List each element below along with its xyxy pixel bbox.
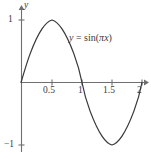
equation-function: sin: [84, 32, 96, 43]
equation-lhs: y: [69, 32, 73, 43]
equation-close-paren: ): [109, 32, 112, 43]
x-tick-label-1: 1: [78, 86, 83, 96]
equation-equals: =: [76, 32, 82, 43]
x-tick-label-1-5: 1.5: [103, 86, 115, 96]
x-tick-label-0-5: 0.5: [43, 86, 55, 96]
plot-canvas: [0, 0, 151, 159]
y-axis-label: y: [24, 1, 28, 11]
y-tick-label-1: 1: [8, 15, 13, 25]
curve-equation-annotation: y = sin(πx): [69, 33, 112, 43]
x-tick-label-2: 2: [137, 86, 142, 96]
sine-function-figure: y 1 −1 0.5 1 1.5 2 y = sin(πx): [0, 0, 151, 159]
x-axis-arrow-icon: [144, 80, 149, 86]
y-tick-label-neg1: −1: [4, 140, 14, 150]
